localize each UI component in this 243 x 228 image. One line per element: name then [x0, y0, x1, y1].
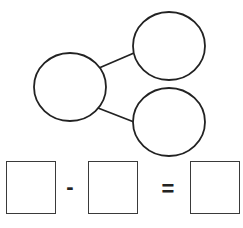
part-circle-bottom[interactable]: [133, 88, 205, 156]
equals-sign: =: [158, 178, 178, 200]
minus-sign: -: [62, 176, 78, 198]
answer-box-1[interactable]: [6, 161, 56, 214]
whole-circle[interactable]: [34, 53, 106, 121]
answer-box-2[interactable]: [88, 161, 138, 214]
number-bond-diagram: - =: [0, 0, 243, 228]
answer-box-3[interactable]: [190, 161, 240, 214]
connector-line-bottom: [98, 108, 134, 122]
part-circle-top[interactable]: [133, 12, 205, 80]
connector-line-top: [99, 53, 134, 68]
